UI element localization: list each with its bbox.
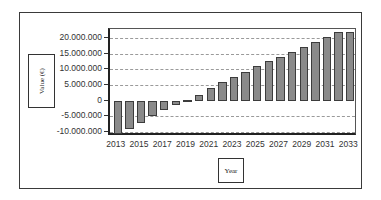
bar-2024: [241, 72, 249, 101]
bar-2028: [288, 52, 296, 101]
y-tick-label: -10.000.000: [57, 126, 102, 136]
bar-2027: [276, 57, 284, 101]
x-axis-title-box: Year: [218, 158, 244, 183]
x-tick-label: 2031: [315, 139, 334, 149]
bar-2018: [172, 101, 180, 106]
bar-2029: [300, 47, 308, 101]
x-tick-label: 2019: [176, 139, 195, 149]
bar-2019: [183, 100, 191, 102]
plot-area: [108, 28, 356, 135]
x-tick-label: 2013: [106, 139, 125, 149]
bar-2032: [334, 32, 342, 101]
bar-2013: [114, 101, 122, 134]
gridline: [110, 38, 355, 39]
x-tick-label: 2033: [339, 139, 358, 149]
bar-2020: [195, 95, 203, 101]
gridline: [110, 116, 355, 117]
bar-2030: [311, 42, 319, 101]
x-tick-label: 2025: [246, 139, 265, 149]
bar-2026: [265, 61, 273, 101]
bar-2033: [346, 32, 354, 101]
y-tick-label: 0: [97, 95, 102, 105]
x-tick-label: 2029: [292, 139, 311, 149]
y-tick-label: -5.000.000: [61, 110, 102, 120]
x-tick-label: 2021: [199, 139, 218, 149]
bar-2014: [125, 101, 133, 129]
x-tick-label: 2027: [269, 139, 288, 149]
x-tick-label: 2015: [130, 139, 149, 149]
x-tick-label: 2023: [223, 139, 242, 149]
bar-2015: [137, 101, 145, 123]
bar-2017: [160, 101, 168, 110]
y-axis-title-box: Value (€): [28, 54, 55, 108]
x-tick-label: 2017: [153, 139, 172, 149]
bar-2025: [253, 66, 261, 100]
y-tick-label: 15.000.000: [59, 48, 102, 58]
y-tick-label: 5.000.000: [64, 79, 102, 89]
bar-2023: [230, 77, 238, 101]
bar-2022: [218, 82, 226, 101]
bar-2021: [207, 88, 215, 101]
gridline: [110, 132, 355, 133]
bar-2016: [148, 101, 156, 117]
y-tick-label: 10.000.000: [59, 63, 102, 73]
y-axis-title: Value (€): [38, 68, 46, 94]
bar-2031: [323, 37, 331, 101]
y-tick-label: 20.000.000: [59, 32, 102, 42]
x-axis-title: Year: [225, 167, 238, 175]
